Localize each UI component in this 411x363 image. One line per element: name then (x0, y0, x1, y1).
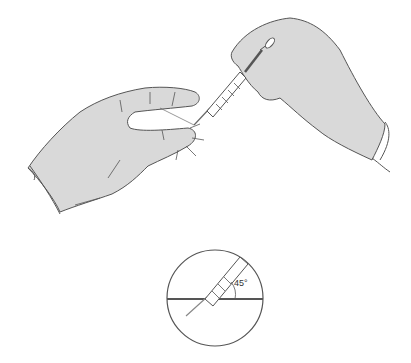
left-gloved-hand (28, 87, 204, 214)
injection-illustration (0, 0, 411, 363)
angle-label: 45° (234, 278, 248, 288)
angle-inset (167, 250, 263, 346)
right-gloved-hand (231, 18, 390, 172)
